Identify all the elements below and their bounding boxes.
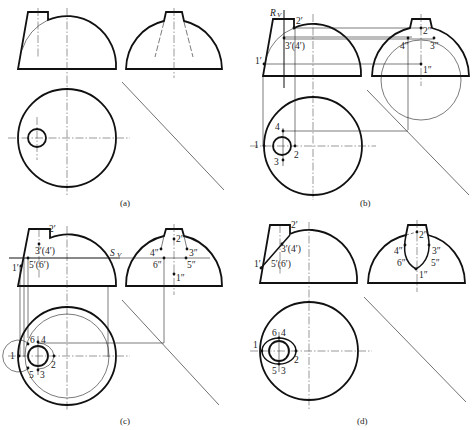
miter-line-d [364, 297, 466, 402]
side-view-a [126, 8, 222, 78]
svg-text:3: 3 [281, 366, 286, 376]
top-view-d: 1 2 3 4 5 6 [250, 302, 372, 400]
svg-text:S: S [110, 248, 115, 258]
svg-text:1′: 1′ [12, 263, 19, 273]
side-view-b: 2″ 4″ 3″ 1″ [372, 14, 469, 130]
svg-text:4″: 4″ [394, 246, 403, 256]
caption-b: (b) [360, 198, 371, 208]
svg-text:V: V [277, 11, 282, 19]
side-view-c: 2″ 4″ 3″ 6″ 5″ 1″ [126, 224, 222, 343]
miter-line-c [122, 300, 219, 405]
svg-text:1′: 1′ [255, 56, 262, 66]
top-view-a [8, 89, 130, 187]
svg-text:2′: 2′ [49, 224, 56, 234]
svg-text:2: 2 [294, 355, 299, 365]
svg-text:4: 4 [41, 335, 46, 345]
top-view-b: 1 2 3 4 [250, 97, 408, 195]
svg-text:6: 6 [272, 328, 277, 338]
panel-d: 2′ 3′(4′) 5′(6′) 1′ 2″ 4″ 3″ 6″ 5″ 1″ [250, 220, 466, 426]
svg-text:1: 1 [253, 340, 258, 350]
caption-d: (d) [357, 416, 368, 426]
svg-text:5′(6′): 5′(6′) [29, 260, 49, 271]
svg-text:5″: 5″ [187, 260, 196, 270]
svg-text:3″: 3″ [430, 41, 439, 51]
svg-text:1′: 1′ [254, 259, 261, 269]
svg-text:5′(6′): 5′(6′) [271, 259, 291, 270]
svg-text:2″: 2″ [419, 230, 428, 240]
svg-text:1″: 1″ [419, 270, 428, 280]
svg-text:3: 3 [274, 157, 279, 167]
svg-text:5: 5 [29, 370, 34, 380]
svg-text:2: 2 [294, 150, 299, 160]
front-view-a [18, 8, 116, 195]
svg-text:R: R [269, 8, 276, 18]
panel-c: 2′ 3′(4′) 5′(6′) 1′ S V 2″ 4″ 3″ 6″ 5″ 1… [3, 224, 222, 426]
front-view-b: 1′ 2′ 3′(4′) R V [255, 8, 434, 200]
svg-text:3″: 3″ [432, 246, 441, 256]
svg-text:3′(4′): 3′(4′) [281, 244, 301, 255]
panel-a: (a) [8, 8, 224, 208]
svg-text:6″: 6″ [397, 258, 406, 268]
svg-text:1″: 1″ [176, 273, 185, 283]
top-view-c: 1 2 3 4 5 6 [3, 307, 164, 405]
side-view-d: 2″ 4″ 3″ 6″ 5″ 1″ [368, 220, 465, 292]
svg-text:2′: 2′ [291, 220, 298, 230]
svg-text:4: 4 [281, 328, 286, 338]
svg-text:1: 1 [10, 351, 15, 361]
svg-text:4: 4 [275, 122, 280, 132]
svg-text:1: 1 [254, 140, 259, 150]
svg-text:4″: 4″ [150, 248, 159, 258]
svg-text:5: 5 [272, 366, 277, 376]
panel-b: 1′ 2′ 3′(4′) R V 2″ 4″ 3″ 1″ [250, 8, 469, 208]
svg-text:2″: 2″ [176, 234, 185, 244]
svg-text:2′: 2′ [296, 16, 303, 26]
miter-line-b [367, 90, 469, 195]
svg-text:3′(4′): 3′(4′) [285, 41, 305, 52]
svg-text:V: V [117, 251, 122, 259]
svg-text:6″: 6″ [153, 260, 162, 270]
miter-line-a [122, 82, 224, 190]
svg-text:6: 6 [30, 335, 35, 345]
svg-text:2″: 2″ [423, 26, 432, 36]
caption-c: (c) [120, 416, 130, 426]
svg-text:3″: 3″ [189, 248, 198, 258]
svg-text:3: 3 [40, 370, 45, 380]
svg-text:3′(4′): 3′(4′) [35, 246, 55, 257]
svg-text:5″: 5″ [431, 258, 440, 268]
svg-text:4″: 4″ [400, 41, 409, 51]
projection-drawing: (a) 1′ 2′ 3′(4′) R V [0, 0, 476, 430]
svg-text:1″: 1″ [423, 65, 432, 75]
svg-text:2: 2 [51, 360, 56, 370]
caption-a: (a) [120, 198, 130, 208]
